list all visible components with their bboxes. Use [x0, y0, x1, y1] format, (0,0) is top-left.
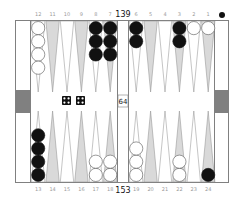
white-checker[interactable] — [32, 22, 45, 35]
white-checker[interactable] — [89, 168, 102, 181]
black-checker[interactable] — [89, 48, 102, 61]
black-checker[interactable] — [32, 142, 45, 155]
point-label: 8 — [94, 11, 97, 17]
black-checker[interactable] — [32, 155, 45, 168]
turn-indicator-icon — [219, 12, 225, 18]
white-checker[interactable] — [104, 155, 117, 168]
black-checker[interactable] — [130, 35, 143, 48]
white-checker[interactable] — [173, 168, 186, 181]
black-checker[interactable] — [89, 22, 102, 35]
point-label: 18 — [107, 186, 113, 192]
die-pip — [67, 97, 69, 99]
point-label: 17 — [93, 186, 99, 192]
top-pip-count: 139 — [115, 10, 130, 19]
backgammon-board: 121110987654321131415161718192021222324 … — [0, 0, 244, 202]
point-label: 2 — [192, 11, 195, 17]
black-checker[interactable] — [173, 35, 186, 48]
black-checker[interactable] — [104, 22, 117, 35]
black-checker[interactable] — [173, 22, 186, 35]
point-label: 21 — [162, 186, 168, 192]
bottom-pip-count: 153 — [115, 186, 130, 195]
white-checker[interactable] — [202, 22, 215, 35]
black-checker[interactable] — [32, 129, 45, 142]
point-label: 16 — [78, 186, 84, 192]
black-checker[interactable] — [202, 168, 215, 181]
point-label: 10 — [64, 11, 70, 17]
point-label: 19 — [133, 186, 139, 192]
point-label: 22 — [176, 186, 182, 192]
white-checker[interactable] — [130, 155, 143, 168]
die-pip — [81, 97, 83, 99]
point-label: 4 — [163, 11, 166, 17]
black-checker[interactable] — [32, 168, 45, 181]
white-checker[interactable] — [173, 155, 186, 168]
white-checker[interactable] — [32, 35, 45, 48]
die-pip — [81, 101, 83, 103]
point-label: 23 — [191, 186, 197, 192]
white-checker[interactable] — [130, 168, 143, 181]
die-pip — [77, 101, 79, 103]
die-pip — [63, 97, 65, 99]
left-bar-marker — [16, 90, 30, 113]
right-bar-marker — [215, 90, 228, 113]
point-label: 3 — [178, 11, 181, 17]
die-pip — [67, 101, 69, 103]
point-label: 7 — [109, 11, 112, 17]
point-label: 9 — [80, 11, 83, 17]
point-label: 14 — [49, 186, 55, 192]
white-checker[interactable] — [32, 61, 45, 74]
point-label: 11 — [49, 11, 55, 17]
white-checker[interactable] — [32, 48, 45, 61]
die-2[interactable] — [76, 96, 85, 105]
white-checker[interactable] — [130, 142, 143, 155]
black-checker[interactable] — [104, 35, 117, 48]
die-pip — [77, 97, 79, 99]
white-checker[interactable] — [89, 155, 102, 168]
die-pip — [63, 101, 65, 103]
black-checker[interactable] — [130, 22, 143, 35]
point-label: 1 — [207, 11, 210, 17]
black-checker[interactable] — [104, 48, 117, 61]
point-label: 12 — [35, 11, 41, 17]
point-label: 15 — [64, 186, 70, 192]
die-1[interactable] — [62, 96, 71, 105]
black-checker[interactable] — [89, 35, 102, 48]
point-label: 13 — [35, 186, 41, 192]
point-label: 6 — [135, 11, 138, 17]
point-label: 24 — [205, 186, 211, 192]
point-label: 5 — [149, 11, 152, 17]
point-label: 20 — [147, 186, 153, 192]
white-checker[interactable] — [104, 168, 117, 181]
white-checker[interactable] — [187, 22, 200, 35]
cube-value: 64 — [119, 98, 128, 106]
